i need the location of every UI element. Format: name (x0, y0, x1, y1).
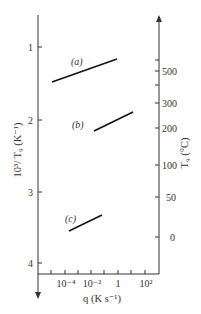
y-right-tick-300: 300 (162, 98, 177, 109)
x-ticks (51, 270, 145, 274)
x-tick-1e2: 10² (140, 278, 153, 289)
y-left-tick-4: 4 (28, 258, 33, 269)
y-right-tick-200: 200 (162, 123, 177, 134)
y-left-axis-title: 10³/ T₉ (K⁻¹) (12, 122, 24, 177)
x-tick-1e-4: 10⁻⁴ (57, 278, 76, 289)
x-tick-1: 1 (116, 278, 121, 289)
series-a-label: (a) (71, 56, 83, 68)
left-ticks (38, 47, 42, 263)
y-left-tick-1: 1 (28, 42, 33, 53)
x-tick-1e-2: 10⁻² (83, 278, 101, 289)
series-b-line (94, 112, 133, 131)
y-left-tick-3: 3 (28, 187, 33, 198)
series-b-label: (b) (72, 119, 84, 131)
y-right-axis-title: T₉ (°C) (179, 137, 191, 168)
y-right-tick-500: 500 (162, 66, 177, 77)
right-axis-arrow-icon (156, 15, 162, 22)
right-ticks (155, 60, 159, 237)
y-right-tick-50: 50 (166, 192, 176, 203)
y-right-tick-0: 0 (170, 232, 175, 243)
series-c-label: (c) (65, 213, 77, 225)
y-left-tick-2: 2 (28, 115, 33, 126)
x-axis-title: q (K s⁻¹) (83, 293, 121, 305)
left-axis-arrow-icon (35, 292, 41, 299)
y-right-tick-100: 100 (162, 160, 177, 171)
chart: 1 2 3 4 500 300 200 100 50 0 10⁻⁴ 10⁻² 1… (0, 0, 201, 314)
series-a-line (52, 59, 117, 82)
